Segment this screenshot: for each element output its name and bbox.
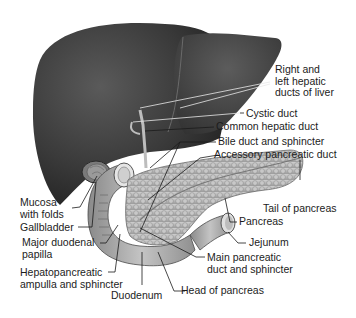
label-line: with folds <box>20 209 64 221</box>
anatomy-diagram: Right and left hepatic ducts of liver Cy… <box>0 0 356 318</box>
label-jejunum: Jejunum <box>249 237 289 249</box>
label-hepatopancreatic-ampulla: Hepatopancreatic ampulla and sphincter <box>20 267 123 290</box>
label-line: ducts of liver <box>275 87 334 99</box>
label-line: Right and <box>275 64 334 76</box>
label-line: papilla <box>22 249 94 261</box>
label-main-pancreatic-duct: Main pancreatic duct and sphincter <box>207 252 293 275</box>
label-line: Hepatopancreatic <box>20 267 123 279</box>
label-duodenum: Duodenum <box>111 290 162 302</box>
label-head-of-pancreas: Head of pancreas <box>181 285 264 297</box>
label-cystic-duct: Cystic duct <box>246 108 297 120</box>
label-right-left-hepatic-ducts: Right and left hepatic ducts of liver <box>275 64 334 99</box>
label-accessory-pancreatic-duct: Accessory pancreatic duct <box>214 149 337 161</box>
label-mucosa: Mucosa with folds <box>20 197 64 220</box>
label-gallbladder: Gallbladder <box>20 222 74 234</box>
label-major-duodenal-papilla: Major duodenal papilla <box>22 237 94 260</box>
label-pancreas: Pancreas <box>239 216 283 228</box>
label-line: Main pancreatic <box>207 252 293 264</box>
label-line: Major duodenal <box>22 237 94 249</box>
label-line: Mucosa <box>20 197 64 209</box>
label-tail-of-pancreas: Tail of pancreas <box>263 203 337 215</box>
label-line: duct and sphincter <box>207 264 293 276</box>
label-line: ampulla and sphincter <box>20 279 123 291</box>
label-common-hepatic-duct: Common hepatic duct <box>216 121 318 133</box>
label-bile-duct: Bile duct and sphincter <box>218 136 324 148</box>
